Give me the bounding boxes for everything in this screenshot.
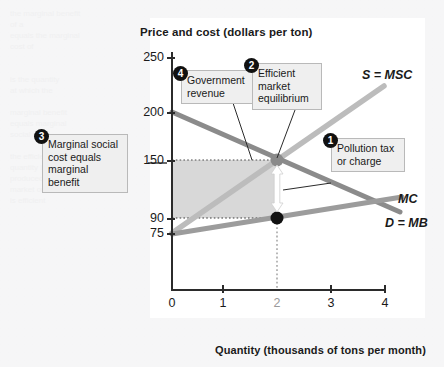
badge-1: 1 (323, 133, 338, 148)
y-tick-75 (167, 233, 175, 235)
curve-label-mc: MC (398, 192, 417, 206)
callout-pollution-tax[interactable]: Pollution tax or charge (331, 138, 405, 172)
x-label-1: 1 (213, 296, 233, 310)
x-label-2: 2 (267, 296, 287, 310)
y-axis-line (171, 52, 173, 291)
badge-3: 3 (34, 129, 49, 144)
badge-4: 4 (173, 66, 188, 81)
x-tick-3 (330, 285, 332, 293)
y-tick-250 (167, 57, 175, 59)
badge-2: 2 (244, 58, 259, 73)
x-label-3: 3 (321, 296, 341, 310)
callout-marginal-social-cost[interactable]: Marginal social cost equals marginal ben… (42, 134, 128, 193)
x-label-4: 4 (375, 296, 395, 310)
callout-1-line1: Pollution tax (337, 142, 399, 155)
y-tick-90 (167, 218, 175, 220)
y-tick-200 (167, 112, 175, 114)
callout-4-line1: Government (187, 74, 247, 87)
y-label-200: 200 (124, 105, 164, 119)
x-tick-4 (384, 285, 386, 293)
chart-stage: Price and cost (dollars per ton) Quantit… (0, 0, 444, 367)
leader-line-government-revenue (233, 103, 252, 160)
marker-marginal-cost-point (271, 212, 284, 225)
x-axis-line (171, 289, 386, 291)
y-label-75: 75 (124, 226, 164, 240)
curve-label-s-msc: S = MSC (362, 68, 412, 82)
y-label-150: 150 (124, 153, 164, 167)
y-label-250: 250 (124, 50, 164, 64)
callout-3-line1: Marginal social (48, 138, 122, 151)
callout-1-line2: or charge (337, 155, 399, 168)
y-label-90: 90 (124, 211, 164, 225)
callout-3-line2: cost equals (48, 151, 122, 164)
curve-label-d-mb: D = MB (385, 216, 428, 230)
x-label-0: 0 (162, 296, 182, 310)
callout-2-line3: equilibrium (258, 92, 316, 105)
callout-efficient-equilibrium[interactable]: Efficient market equilibrium (252, 63, 322, 110)
callout-government-revenue[interactable]: Government revenue (181, 70, 253, 104)
callout-4-line2: revenue (187, 87, 247, 100)
callout-2-line2: market (258, 80, 316, 93)
x-tick-1 (222, 285, 224, 293)
leader-line-pollution-tax (283, 183, 331, 190)
callout-2-line1: Efficient (258, 67, 316, 80)
y-tick-150 (167, 160, 175, 162)
callout-3-line3: marginal benefit (48, 163, 122, 188)
